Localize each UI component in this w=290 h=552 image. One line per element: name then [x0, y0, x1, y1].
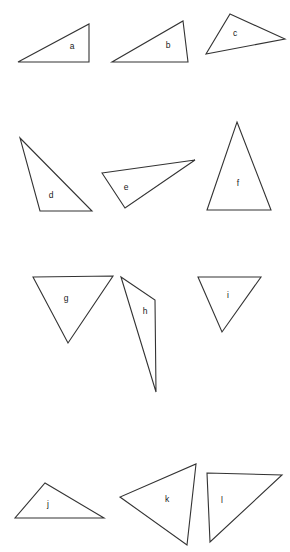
triangle-g — [33, 276, 113, 343]
triangle-j — [15, 483, 104, 518]
triangle-d — [20, 138, 92, 211]
triangle-i — [198, 277, 261, 332]
triangle-label-h: h — [143, 306, 148, 316]
triangle-label-i: i — [227, 290, 229, 300]
triangle-label-e: e — [124, 182, 129, 192]
triangle-label-d: d — [49, 190, 54, 200]
triangle-label-b: b — [166, 40, 171, 50]
triangles-canvas: abcdefghijkl — [0, 0, 290, 552]
triangle-a — [18, 24, 89, 62]
triangles-figure: abcdefghijkl — [0, 0, 290, 552]
triangle-label-j: j — [46, 499, 49, 509]
labels-group: abcdefghijkl — [46, 28, 240, 509]
shapes-group — [15, 14, 285, 545]
triangle-k — [120, 464, 196, 545]
triangle-label-a: a — [70, 41, 75, 51]
triangle-h — [121, 277, 156, 392]
triangle-e — [102, 160, 195, 208]
triangle-label-g: g — [64, 293, 69, 303]
triangle-b — [112, 21, 188, 62]
triangle-c — [206, 14, 285, 54]
triangle-l — [207, 473, 282, 542]
triangle-f — [207, 122, 271, 210]
triangle-label-l: l — [221, 495, 223, 505]
